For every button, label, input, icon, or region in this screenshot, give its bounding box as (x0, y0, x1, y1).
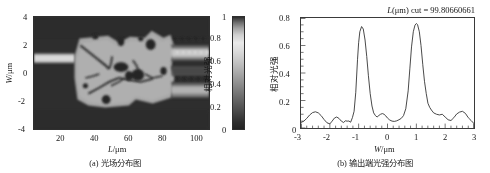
panel-a-ylabel: W/μm (5, 48, 14, 98)
panel-a-ytick-n4: -4 (18, 125, 25, 134)
colorbar-tick-0: 0 (222, 126, 226, 135)
panel-b-xtick-n1: -1 (352, 133, 359, 142)
panel-a-ylabel-unit: /μm (4, 63, 14, 77)
heatmap-image (34, 17, 209, 129)
panel-a-xtick-40: 40 (90, 134, 99, 143)
panel-b-xlabel-unit: /μm (381, 144, 395, 154)
colorbar-tick-02: 0.2 (210, 103, 221, 112)
panel-b-ytick-06: 0.6 (279, 42, 290, 51)
intensity-curve (301, 18, 474, 128)
panel-a-ytick-0: 0 (23, 69, 27, 78)
panel-b-xtick-n3: -3 (294, 133, 301, 142)
panel-b-ytick-04: 0.4 (279, 70, 290, 79)
panel-b-xlabel: W/μm (374, 145, 395, 154)
panel-a-xtick-100: 100 (190, 134, 203, 143)
panel-a-xtick-80: 80 (158, 134, 167, 143)
panel-b-ytick-08: 0.8 (279, 14, 290, 23)
panel-a-ytick-4: 4 (23, 13, 27, 22)
panel-b-ylabel: 相对光强 (270, 44, 279, 104)
panel-a-xlabel-unit: /μm (113, 144, 127, 154)
panel-b-output-intensity: L(μm) cut = 99.80660661 (245, 0, 490, 173)
panel-a-xtick-60: 60 (124, 134, 133, 143)
panel-b-xtick-n2: -2 (323, 133, 330, 142)
colorbar-label: 相对光强 (204, 44, 213, 104)
panel-b-xtick-1: 1 (414, 133, 418, 142)
panel-a-caption: (a) 光场分布图 (55, 160, 175, 168)
panel-a-xlabel: L/μm (108, 145, 126, 154)
figure-container: 1 0.8 0.6 0.4 0.2 0 相对光强 4 2 0 -2 -4 W/μ… (0, 0, 490, 173)
panel-b-title-text: (μm) cut = 99.80660661 (392, 5, 475, 15)
colorbar-tick-08: 0.8 (210, 34, 221, 43)
panel-a-optical-field: 1 0.8 0.6 0.4 0.2 0 相对光强 4 2 0 -2 -4 W/μ… (0, 0, 245, 173)
panel-b-title: L(μm) cut = 99.80660661 (387, 6, 475, 15)
panel-b-caption: (b) 输出端光强分布图 (320, 160, 430, 168)
panel-b-xtick-0: 0 (385, 133, 389, 142)
line-plot-area (300, 17, 475, 129)
panel-a-ytick-2: 2 (23, 41, 27, 50)
curve-path (301, 24, 474, 124)
panel-a-ylabel-symbol: W (4, 76, 14, 83)
heatmap-plot-area (33, 16, 210, 130)
panel-b-ytick-02: 0.2 (279, 98, 290, 107)
panel-b-xtick-2: 2 (443, 133, 447, 142)
colorbar-tick-1: 1 (222, 13, 226, 22)
colorbar (232, 16, 245, 130)
panel-b-xtick-3: 3 (472, 133, 476, 142)
panel-a-ytick-n2: -2 (18, 97, 25, 106)
panel-a-xtick-20: 20 (56, 134, 65, 143)
